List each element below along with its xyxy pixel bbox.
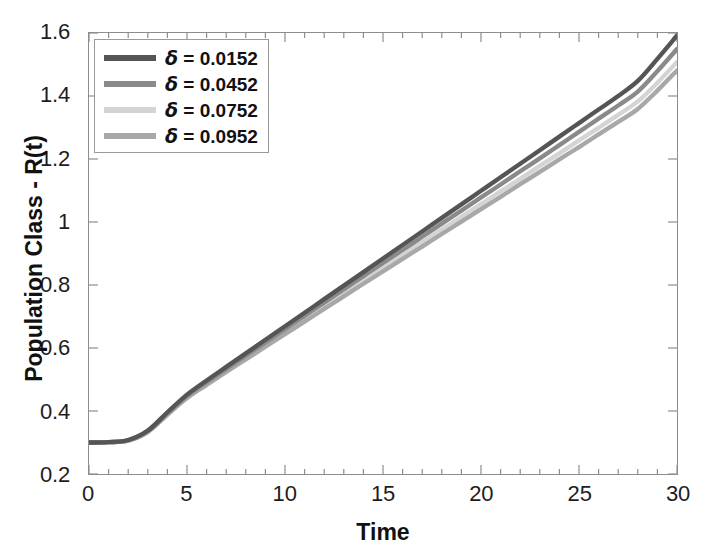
- x-tick-label: 0: [82, 481, 94, 507]
- x-tick-label: 5: [180, 481, 192, 507]
- y-tick-label: 1: [58, 209, 70, 235]
- legend-item-label: δ = 0.0952: [165, 125, 258, 148]
- legend-item: δ = 0.0752: [95, 97, 268, 123]
- x-tick-label: 10: [273, 481, 297, 507]
- legend-color-swatch: [104, 55, 156, 61]
- legend-color-swatch: [104, 107, 156, 113]
- x-axis-title: Time: [88, 519, 678, 546]
- y-tick-label: 1.6: [40, 19, 70, 45]
- legend-box: δ = 0.0152δ = 0.0452δ = 0.0752δ = 0.0952: [94, 39, 269, 153]
- legend-color-swatch: [104, 133, 156, 139]
- x-tick-label: 20: [469, 481, 493, 507]
- figure-canvas: 0.20.40.60.811.21.41.6 δ = 0.0152δ = 0.0…: [0, 0, 707, 558]
- x-tick-label: 25: [568, 481, 592, 507]
- x-axis-tick-labels: 051015202530: [88, 481, 678, 515]
- legend-item: δ = 0.0152: [95, 45, 268, 71]
- legend-item: δ = 0.0452: [95, 71, 268, 97]
- x-tick-label: 15: [371, 481, 395, 507]
- y-axis-title: Population Class - R(t): [21, 44, 48, 474]
- x-tick-label: 30: [666, 481, 690, 507]
- legend-item-label: δ = 0.0752: [165, 99, 258, 122]
- legend-color-swatch: [104, 81, 156, 87]
- legend-item-label: δ = 0.0152: [165, 47, 258, 70]
- legend-item: δ = 0.0952: [95, 123, 268, 149]
- plot-area: δ = 0.0152δ = 0.0452δ = 0.0752δ = 0.0952: [88, 32, 678, 475]
- legend-item-label: δ = 0.0452: [165, 73, 258, 96]
